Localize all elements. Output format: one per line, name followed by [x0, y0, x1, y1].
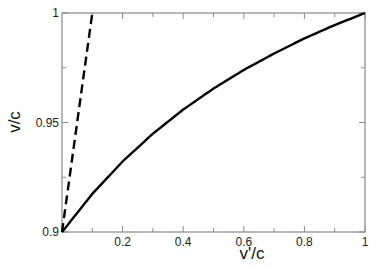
x-tick-label: 0.2: [114, 235, 131, 249]
chart: 0.20.40.60.81 0.90.951 v'/c v/c: [0, 0, 384, 266]
axes-box: [62, 13, 365, 232]
series-relativistic: [62, 13, 365, 232]
plot-frame: [62, 13, 365, 232]
y-tick-label: 1: [52, 6, 59, 20]
y-tick-label: 0.95: [36, 116, 60, 130]
x-axis-label: v'/c: [240, 244, 265, 263]
y-tick-labels: 0.90.951: [36, 6, 60, 239]
x-tick-label: 0.4: [175, 235, 192, 249]
data-series: [62, 13, 365, 232]
x-tick-label: 1: [362, 235, 369, 249]
x-tick-label: 0.8: [296, 235, 313, 249]
axis-ticks: [62, 13, 365, 232]
y-axis-label: v/c: [5, 111, 24, 133]
y-tick-label: 0.9: [42, 225, 59, 239]
